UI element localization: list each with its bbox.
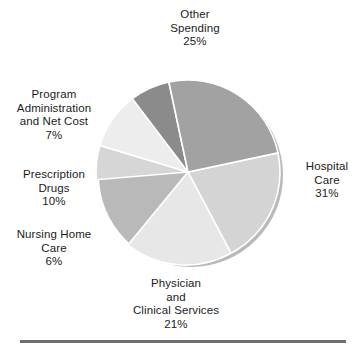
- pie-label-prescription-drugs: Prescription Drugs 10%: [2, 168, 106, 209]
- horizontal-rule: [20, 340, 346, 343]
- pie-label-nursing-home-care: Nursing Home Care 6%: [0, 228, 108, 269]
- pie-label-hospital-care: Hospital Care 31%: [296, 160, 358, 201]
- pie-label-physician-clinical-services: Physician and Clinical Services 21%: [110, 277, 242, 331]
- pie-label-other-spending: Other Spending 25%: [133, 8, 257, 49]
- pie-chart-figure: Other Spending 25% Program Administratio…: [0, 0, 360, 354]
- pie-label-program-administration: Program Administration and Net Cost 7%: [2, 88, 106, 142]
